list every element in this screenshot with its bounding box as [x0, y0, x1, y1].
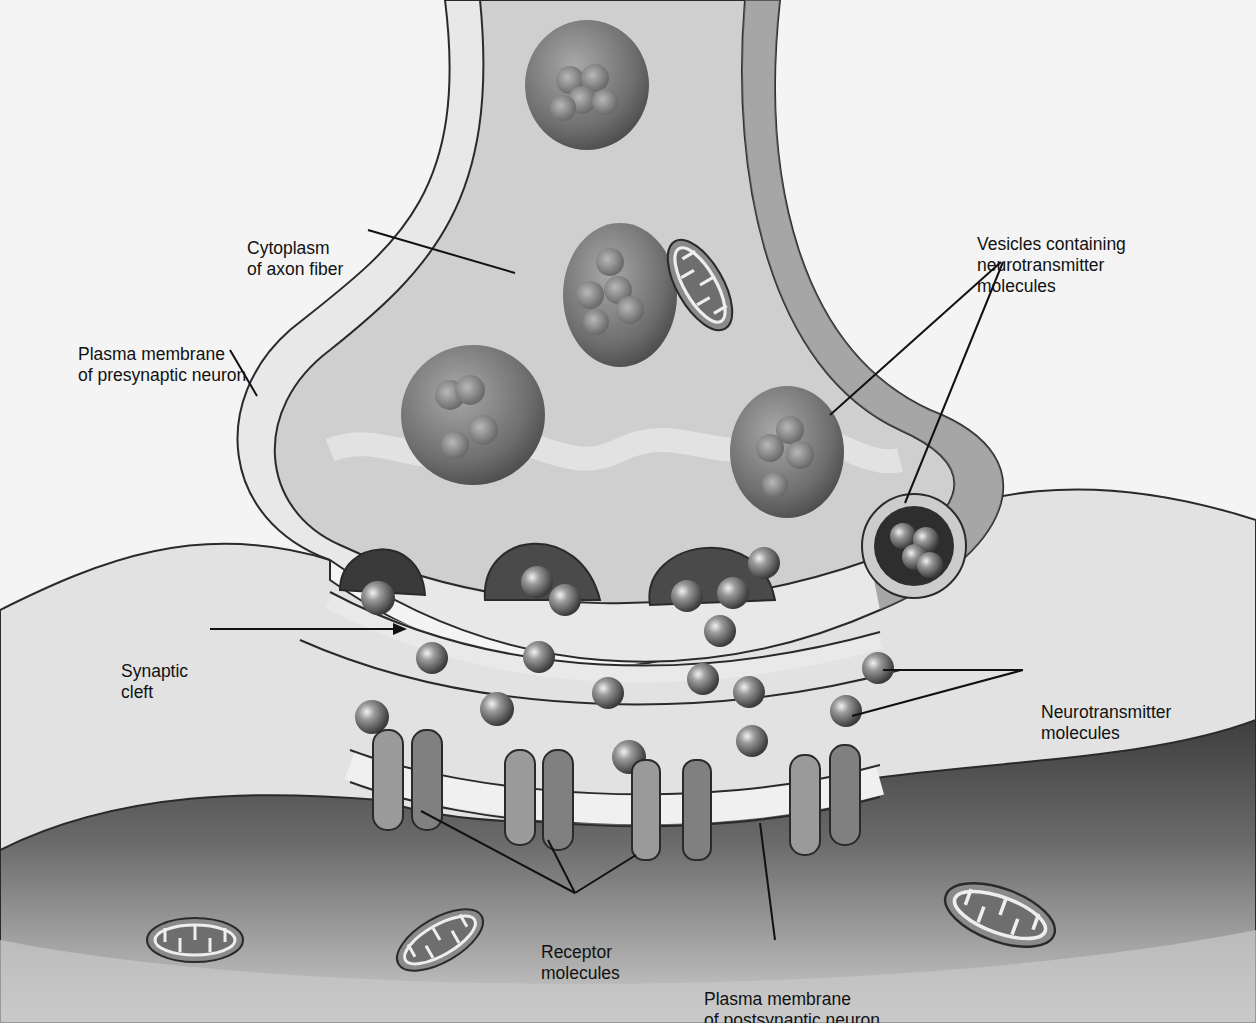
label-vesicles: Vesicles containingneurotransmittermolec…	[977, 192, 1126, 318]
synapse-diagram: Cytoplasmof axon fiber Plasma membraneof…	[0, 0, 1256, 1023]
label-synaptic-cleft: Synapticcleft	[121, 619, 188, 724]
label-neurotransmitter: Neurotransmittermolecules	[1041, 660, 1171, 765]
synapse-illustration	[0, 0, 1256, 1023]
label-postsynaptic-membrane: Plasma membraneof postsynaptic neuron	[704, 947, 880, 1023]
label-cytoplasm: Cytoplasmof axon fiber	[247, 196, 343, 301]
label-presynaptic-membrane: Plasma membraneof presynaptic neuron	[78, 302, 246, 407]
label-receptor: Receptormolecules	[541, 900, 620, 1005]
